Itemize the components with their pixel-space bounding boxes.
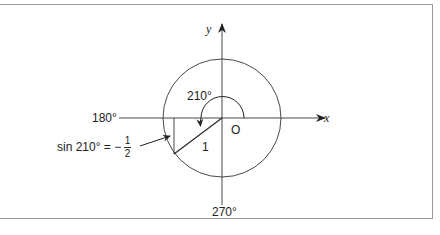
one-half-fraction: 1 2: [124, 136, 131, 159]
origin-label: O: [231, 124, 240, 136]
angle-label-180: 180°: [92, 112, 117, 124]
x-axis-label: x: [324, 112, 329, 124]
fraction-denominator: 2: [125, 149, 131, 159]
rotation-angle-label: 210°: [187, 90, 212, 102]
hypotenuse-label: 1: [202, 141, 209, 153]
annotation-pointer: [140, 136, 170, 146]
unit-circle-diagram: [0, 0, 440, 235]
y-axis-label: y: [206, 23, 211, 35]
angle-label-270: 270°: [212, 206, 237, 218]
fraction-numerator: 1: [125, 136, 131, 146]
hypotenuse-radius: [174, 118, 222, 154]
sine-equation-text: sin 210° = −: [57, 141, 121, 153]
